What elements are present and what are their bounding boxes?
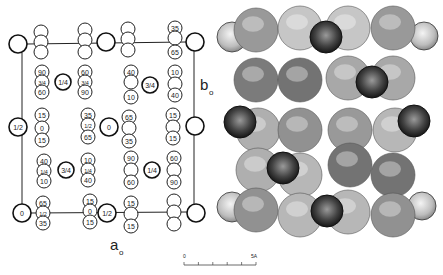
cation-sphere — [310, 21, 342, 53]
anion-circle — [78, 45, 92, 59]
anion-stack: 1515 — [166, 108, 180, 145]
anion-circle — [168, 31, 182, 45]
sphere-highlight — [244, 156, 266, 171]
anion-stack: 15015 — [35, 108, 49, 147]
cation-circle — [9, 35, 27, 53]
height-label: 15 — [38, 137, 46, 144]
cation-sphere — [267, 152, 299, 184]
space-filling-model — [217, 6, 438, 237]
height-label: 15 — [169, 112, 177, 119]
height-label: 65 — [84, 134, 92, 141]
height-label: 15 — [127, 223, 135, 230]
anion-stack: 15015 — [83, 194, 97, 229]
sphere-highlight — [286, 201, 308, 216]
anion-stack: 401/410 — [37, 154, 51, 188]
anion-stack: 651/235 — [36, 196, 50, 230]
height-label: 60 — [170, 155, 178, 162]
height-label: 15 — [86, 219, 94, 226]
anion-stack — [34, 25, 48, 59]
anion-stack — [121, 22, 135, 57]
sphere-highlight — [286, 116, 308, 131]
scale-bar: 0 5A — [183, 253, 258, 265]
anion-stack: 9060 — [124, 151, 138, 189]
height-label: 10 — [171, 69, 179, 76]
cation-sphere — [356, 66, 388, 98]
anion-stack: 1040 — [168, 65, 182, 102]
axis-label-a-text: a — [110, 236, 119, 253]
sphere-highlight — [336, 116, 358, 131]
height-label: 0 — [88, 208, 92, 215]
axis-label-b-subscript: o — [209, 88, 214, 97]
cation-sphere — [224, 106, 256, 138]
height-label: 35 — [39, 220, 47, 227]
anion-circle — [167, 217, 181, 231]
cation-circle — [186, 117, 204, 135]
sphere-highlight — [242, 66, 264, 81]
height-label: 1/2 — [102, 210, 112, 217]
height-label: 10 — [40, 178, 48, 185]
anion-circle — [34, 45, 48, 59]
axis-label-b-text: b — [200, 76, 208, 93]
anion-stack: 101/440 — [81, 153, 95, 187]
anion-stack: 3565 — [168, 21, 182, 59]
sphere-highlight — [379, 201, 401, 216]
anion-stack: 1515 — [124, 196, 138, 233]
sphere-highlight — [286, 66, 308, 81]
anion-stack — [167, 194, 181, 231]
height-label: 0 — [20, 210, 24, 217]
height-label: 65 — [171, 49, 179, 56]
anion-stack: 6535 — [122, 110, 136, 148]
height-label: 15 — [169, 135, 177, 142]
axis-label-a-subscript: o — [119, 248, 124, 257]
height-label: 3/4 — [61, 167, 71, 174]
scale-start-label: 0 — [183, 253, 186, 259]
height-label: 60 — [38, 89, 46, 96]
scale-end-label: 5A — [251, 253, 258, 259]
height-label: 65 — [125, 114, 133, 121]
sphere-highlight — [286, 14, 308, 29]
anion-stack: 603/490 — [78, 65, 92, 99]
height-label: 1/2 — [13, 124, 23, 131]
anion-stack: 6090 — [167, 151, 181, 189]
anion-stack: 351/265 — [81, 108, 95, 144]
anion-circle — [122, 121, 136, 135]
anion-circle — [124, 75, 138, 89]
height-label: 15 — [127, 200, 135, 207]
height-label: 10 — [127, 94, 135, 101]
height-label: 3/4 — [145, 82, 155, 89]
sphere-highlight — [242, 196, 264, 211]
height-label: 40 — [84, 177, 92, 184]
cation-sphere — [398, 105, 430, 137]
cation-circle — [186, 33, 204, 51]
anion-stack — [78, 23, 92, 59]
height-label: 0 — [107, 124, 111, 131]
axis-label-b: b o — [200, 76, 214, 97]
height-label: 1/4 — [147, 167, 157, 174]
height-label: 1/2 — [84, 123, 92, 129]
height-label: 15 — [38, 112, 46, 119]
height-label: 90 — [81, 89, 89, 96]
height-label: 40 — [171, 92, 179, 99]
anion-stack: 4010 — [124, 65, 138, 104]
crystal-structure-figure: 3565903/460603/4904010104015015351/26565… — [0, 0, 443, 275]
cation-sphere — [311, 195, 343, 227]
height-label: 60 — [127, 179, 135, 186]
sphere-highlight — [379, 14, 401, 29]
height-label: 90 — [170, 179, 178, 186]
height-label: 35 — [125, 138, 133, 145]
scale-ticks — [184, 262, 256, 265]
cation-circle — [187, 204, 205, 222]
sphere-highlight — [379, 161, 401, 176]
sphere-highlight — [334, 64, 356, 79]
height-label: 1/4 — [58, 79, 68, 86]
anion-circle — [121, 43, 135, 57]
projection-diagram: 3565903/460603/4904010104015015351/26565… — [9, 21, 214, 257]
anion-stack: 903/460 — [35, 65, 49, 99]
sphere-highlight — [336, 151, 358, 166]
sphere-highlight — [242, 16, 264, 31]
height-label: 90 — [127, 155, 135, 162]
height-label: 0 — [40, 125, 44, 132]
axis-label-a: a o — [110, 236, 124, 257]
cation-circle — [97, 33, 115, 51]
